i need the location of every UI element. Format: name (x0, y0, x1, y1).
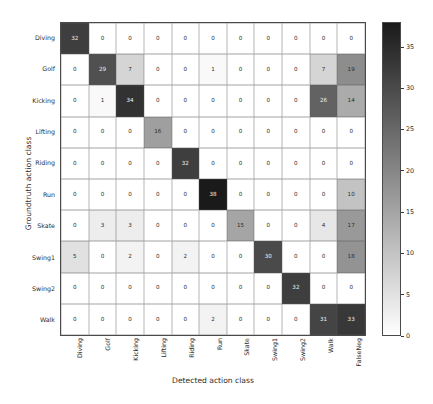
heatmap-cell: 0 (116, 304, 144, 335)
heatmap-cell: 0 (227, 54, 255, 85)
y-tick-label: Lifting (4, 128, 60, 135)
colorbar-tick: 0 (401, 332, 410, 340)
heatmap-cell: 0 (172, 85, 200, 116)
heatmap-cell: 0 (144, 148, 172, 179)
heatmap-cell: 0 (254, 117, 282, 148)
heatmap-cell: 0 (199, 210, 227, 241)
heatmap-cell: 17 (337, 210, 365, 241)
heatmap-cell: 2 (116, 241, 144, 272)
heatmap-cell: 0 (310, 23, 338, 54)
heatmap-cell: 0 (89, 273, 117, 304)
heatmap-cell: 0 (199, 85, 227, 116)
heatmap-cell: 0 (199, 273, 227, 304)
heatmap-cell: 5 (61, 241, 89, 272)
heatmap-cell: 0 (172, 179, 200, 210)
heatmap-cell: 0 (61, 210, 89, 241)
heatmap-cell: 0 (227, 179, 255, 210)
heatmap-cell: 0 (89, 241, 117, 272)
heatmap-cell: 0 (282, 23, 310, 54)
heatmap-cell: 0 (254, 304, 282, 335)
heatmap-cell: 32 (61, 23, 89, 54)
heatmap-cell: 0 (199, 148, 227, 179)
heatmap-cell: 0 (144, 241, 172, 272)
heatmap-cell: 0 (172, 210, 200, 241)
heatmap-cell: 0 (144, 210, 172, 241)
heatmap-cell: 0 (172, 273, 200, 304)
y-tick-label: Swing1 (4, 254, 60, 261)
heatmap-cell: 0 (282, 179, 310, 210)
heatmap-cell: 0 (199, 23, 227, 54)
heatmap-cell: 0 (89, 23, 117, 54)
x-tick-label: Run (216, 338, 223, 350)
heatmap-cell: 0 (61, 304, 89, 335)
colorbar-tick: 10 (401, 249, 414, 257)
colorbar-gradient (382, 22, 401, 336)
x-tick-label: Riding (188, 338, 195, 358)
heatmap-cell: 0 (227, 241, 255, 272)
heatmap-cell: 2 (172, 241, 200, 272)
colorbar-tick: 15 (401, 208, 414, 216)
heatmap-cell: 0 (337, 148, 365, 179)
heatmap-cell: 33 (337, 304, 365, 335)
colorbar-tick: 20 (401, 167, 414, 175)
heatmap-cell: 0 (310, 148, 338, 179)
heatmap-cell: 7 (310, 54, 338, 85)
heatmap-cell: 0 (310, 273, 338, 304)
heatmap-cell: 1 (89, 85, 117, 116)
heatmap-cell: 0 (89, 117, 117, 148)
heatmap-cell: 0 (144, 85, 172, 116)
heatmap-cell: 16 (144, 117, 172, 148)
heatmap-cell: 0 (61, 273, 89, 304)
heatmap-cell: 0 (199, 241, 227, 272)
heatmap-cell: 0 (337, 23, 365, 54)
heatmap-cell: 0 (254, 85, 282, 116)
heatmap-cell: 26 (310, 85, 338, 116)
x-tick-label: Skate (243, 338, 250, 356)
y-tick-label: Riding (4, 159, 60, 166)
heatmap-cell: 30 (254, 241, 282, 272)
y-tick-label: Skate (4, 222, 60, 229)
heatmap-cell: 0 (254, 23, 282, 54)
heatmap-cell: 0 (227, 117, 255, 148)
x-axis-label: Detected action class (60, 376, 366, 385)
colorbar-tick: 5 (401, 291, 410, 299)
heatmap-cell: 0 (282, 54, 310, 85)
x-tick-label: Swing1 (271, 338, 278, 361)
x-tick-label: Golf (104, 338, 111, 351)
heatmap-cell: 0 (282, 304, 310, 335)
y-tick-label: Run (4, 191, 60, 198)
heatmap-cell: 0 (116, 148, 144, 179)
y-tick-label: Golf (4, 65, 60, 72)
heatmap-cell: 0 (172, 117, 200, 148)
heatmap-cell: 0 (61, 85, 89, 116)
y-axis-tick-labels: DivingGolfKickingLiftingRidingRunSkateSw… (0, 22, 60, 336)
heatmap-cell: 0 (89, 179, 117, 210)
x-tick-label: Swing2 (299, 338, 306, 361)
heatmap-cell: 0 (282, 117, 310, 148)
heatmap-cell: 0 (254, 273, 282, 304)
y-tick-label: Swing2 (4, 285, 60, 292)
heatmap-cell: 0 (144, 273, 172, 304)
heatmap-cell: 0 (144, 54, 172, 85)
heatmap-cell: 0 (227, 23, 255, 54)
heatmap-cell: 0 (116, 273, 144, 304)
colorbar-tick: 30 (401, 84, 414, 92)
heatmap-cell: 0 (254, 179, 282, 210)
heatmap-cell: 4 (310, 210, 338, 241)
x-tick-label: Lifting (160, 338, 167, 358)
heatmap-cell: 0 (254, 54, 282, 85)
y-tick-label: Walk (4, 316, 60, 323)
heatmap-cell: 0 (227, 304, 255, 335)
heatmap-cell: 19 (337, 54, 365, 85)
heatmap-cell: 2 (199, 304, 227, 335)
y-tick-label: Diving (4, 34, 60, 41)
heatmap-cell: 0 (172, 23, 200, 54)
heatmap-cell: 29 (89, 54, 117, 85)
heatmap-cell: 0 (282, 210, 310, 241)
heatmap-cell: 32 (282, 273, 310, 304)
heatmap-cell: 0 (144, 304, 172, 335)
x-tick-label: FalseNeg (355, 338, 362, 366)
heatmap-cell: 0 (282, 148, 310, 179)
x-tick-label: Kicking (132, 338, 139, 361)
heatmap-cell: 0 (337, 117, 365, 148)
